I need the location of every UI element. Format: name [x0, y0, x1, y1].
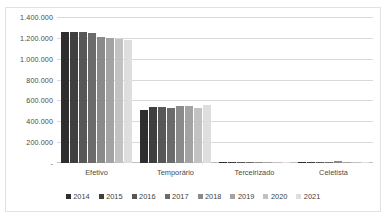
bar[interactable]: [298, 162, 306, 163]
legend-item-2017[interactable]: 2017: [165, 192, 189, 201]
y-axis-tick-labels: -200.000400.000600.000800.0001.000.0001.…: [5, 17, 53, 163]
bar[interactable]: [124, 40, 132, 163]
bar[interactable]: [246, 162, 254, 163]
bar[interactable]: [203, 105, 211, 163]
bar-group-terceirizado: [215, 17, 294, 163]
legend-label: 2021: [304, 192, 320, 201]
legend-item-2020[interactable]: 2020: [263, 192, 287, 201]
x-axis-label-terceirizado: Terceirizado: [215, 168, 294, 177]
x-axis-label-efetivo: Efetivo: [57, 168, 136, 177]
bar[interactable]: [194, 108, 202, 163]
bar[interactable]: [176, 106, 184, 163]
legend-swatch-icon: [165, 194, 170, 199]
legend-swatch-icon: [66, 194, 71, 199]
bar[interactable]: [343, 162, 351, 163]
legend-item-2021[interactable]: 2021: [296, 192, 320, 201]
bar[interactable]: [307, 162, 315, 163]
bar[interactable]: [167, 108, 175, 163]
bar[interactable]: [264, 162, 272, 163]
bar-group-temporrio: [136, 17, 215, 163]
y-axis-tick-label: 1.200.000: [20, 33, 53, 42]
x-axis-label-celetista: Celetista: [294, 168, 373, 177]
bar[interactable]: [282, 162, 290, 163]
legend-label: 2014: [73, 192, 89, 201]
legend-label: 2019: [238, 192, 254, 201]
bar-group-celetista: [294, 17, 373, 163]
legend-item-2019[interactable]: 2019: [230, 192, 254, 201]
bar[interactable]: [237, 162, 245, 163]
bar[interactable]: [316, 162, 324, 163]
x-axis-category-labels: EfetivoTemporárioTerceirizadoCeletista: [57, 168, 373, 182]
plot-area: [57, 17, 373, 163]
legend-swatch-icon: [99, 194, 104, 199]
bar[interactable]: [228, 162, 236, 163]
bar[interactable]: [79, 32, 87, 163]
legend-item-2014[interactable]: 2014: [66, 192, 90, 201]
bar[interactable]: [97, 37, 105, 163]
y-axis-tick-label: 1.400.000: [20, 13, 53, 22]
legend-item-2015[interactable]: 2015: [99, 192, 123, 201]
bar[interactable]: [61, 32, 69, 163]
bar[interactable]: [140, 110, 148, 163]
legend-label: 2017: [172, 192, 188, 201]
legend-label: 2018: [205, 192, 221, 201]
bar[interactable]: [325, 162, 333, 163]
chart-legend: 20142015201620172018201920202021: [5, 192, 381, 201]
y-axis-tick-label: 600.000: [26, 96, 53, 105]
bar[interactable]: [334, 161, 342, 163]
legend-swatch-icon: [296, 194, 301, 199]
bar[interactable]: [273, 162, 281, 163]
y-axis-tick-label: 1.000.000: [20, 54, 53, 63]
bar[interactable]: [255, 162, 263, 163]
legend-swatch-icon: [132, 194, 137, 199]
legend-label: 2020: [271, 192, 287, 201]
legend-label: 2015: [106, 192, 122, 201]
legend-label: 2016: [139, 192, 155, 201]
legend-item-2018[interactable]: 2018: [198, 192, 222, 201]
y-axis-tick-label: 200.000: [26, 138, 53, 147]
bar[interactable]: [106, 38, 114, 163]
legend-swatch-icon: [198, 194, 203, 199]
legend-item-2016[interactable]: 2016: [132, 192, 156, 201]
bar[interactable]: [352, 162, 360, 163]
legend-swatch-icon: [263, 194, 268, 199]
bar[interactable]: [88, 33, 96, 163]
bar[interactable]: [185, 106, 193, 163]
y-axis-tick-label: 400.000: [26, 117, 53, 126]
bar[interactable]: [219, 162, 227, 163]
y-axis-tick-label: 800.000: [26, 75, 53, 84]
bar[interactable]: [70, 32, 78, 163]
chart-container: -200.000400.000600.000800.0001.000.0001.…: [0, 0, 387, 220]
bar-group-efetivo: [57, 17, 136, 163]
bar[interactable]: [158, 107, 166, 163]
bar[interactable]: [115, 39, 123, 163]
x-axis-label-temporrio: Temporário: [136, 168, 215, 177]
bar[interactable]: [149, 107, 157, 163]
legend-swatch-icon: [230, 194, 235, 199]
bar[interactable]: [361, 162, 369, 163]
y-axis-tick-label: -: [51, 159, 54, 168]
